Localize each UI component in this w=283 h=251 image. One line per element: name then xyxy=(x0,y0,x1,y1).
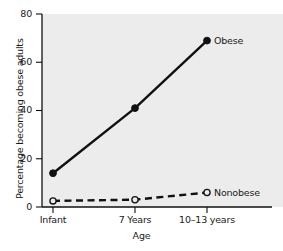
series-line-obese xyxy=(53,41,207,174)
data-point-nonobese-infant xyxy=(50,198,56,204)
x-tick-label-7-years: 7 Years xyxy=(105,214,165,225)
chart-figure: 80 60 40 20 0 Infant 7 Years 10–13 years… xyxy=(0,0,283,251)
series-label-nonobese: Nonobese xyxy=(214,187,260,198)
y-tick-label-80: 80 xyxy=(8,9,32,19)
data-point-nonobese-7-years xyxy=(132,197,138,203)
x-axis-title: Age xyxy=(0,230,283,241)
series-line-nonobese xyxy=(53,193,207,201)
x-tick-label-infant: Infant xyxy=(23,214,83,225)
data-point-obese-10-13-years xyxy=(204,37,211,44)
x-tick-label-10-13-years: 10–13 years xyxy=(166,214,248,225)
data-point-obese-7-years xyxy=(132,105,139,112)
data-point-nonobese-10-13-years xyxy=(204,189,210,195)
y-axis-title: Percentage becoming obese adults xyxy=(14,38,25,199)
series-label-obese: Obese xyxy=(214,35,243,46)
data-point-obese-infant xyxy=(50,170,57,177)
y-tick-label-0: 0 xyxy=(8,202,32,212)
